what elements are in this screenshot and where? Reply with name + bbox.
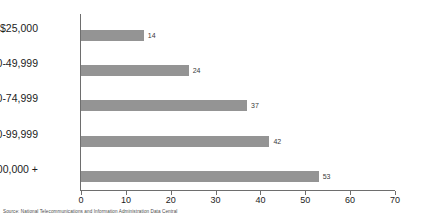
x-tick-label: 0 (66, 196, 96, 205)
chart-row: $25,000-49,999 24 (81, 49, 395, 84)
plot-area: < $25,000 14 $25,000-49,999 24 $50,000-7… (81, 14, 395, 190)
x-tick-label: 50 (290, 196, 320, 205)
bar-value-label: 37 (251, 102, 259, 109)
bar-value-label: 24 (193, 67, 201, 74)
category-label: $100,000 + (0, 164, 38, 175)
chart-row: $75,000-99,999 42 (81, 120, 395, 155)
chart-title (0, 0, 435, 3)
x-tick-label: 70 (380, 196, 410, 205)
category-label: < $25,000 (0, 23, 38, 34)
bar[interactable] (81, 30, 144, 41)
source-note: Source: National Telecommunications and … (3, 209, 177, 214)
x-tick-label: 40 (245, 196, 275, 205)
x-tick-label: 10 (111, 196, 141, 205)
category-label: $25,000-49,999 (0, 58, 38, 69)
bar[interactable] (81, 171, 319, 182)
bar-value-label: 53 (323, 173, 331, 180)
x-tick-label: 20 (156, 196, 186, 205)
bar[interactable] (81, 65, 189, 76)
x-tick-label: 30 (201, 196, 231, 205)
chart-row: $100,000 + 53 (81, 155, 395, 190)
x-tick-label: 60 (335, 196, 365, 205)
category-label: $50,000-74,999 (0, 93, 38, 104)
bar[interactable] (81, 136, 269, 147)
bar-value-label: 42 (273, 138, 281, 145)
chart-row: $50,000-74,999 37 (81, 84, 395, 119)
category-label: $75,000-99,999 (0, 129, 38, 140)
x-axis-ticks: 0 10 20 30 40 50 60 70 (81, 191, 395, 211)
bar-value-label: 14 (148, 32, 156, 39)
bar-chart: < $25,000 14 $25,000-49,999 24 $50,000-7… (0, 0, 435, 220)
bar[interactable] (81, 100, 247, 111)
chart-row: < $25,000 14 (81, 14, 395, 49)
